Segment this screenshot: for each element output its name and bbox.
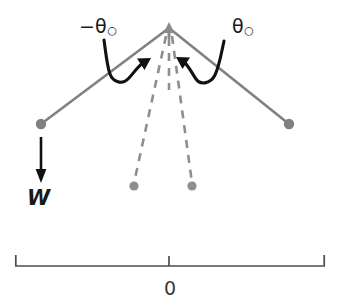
positive-theta-subscript: ○ [244,24,254,37]
weight-label: W [27,188,50,209]
positive-theta-label: θ○ [232,17,254,36]
weight-arrow [36,137,47,183]
diagram-canvas [0,0,341,305]
displacement-axis [15,255,325,266]
origin-label: 0 [164,279,176,298]
bobs [36,119,294,191]
dashed-left-bob [129,181,138,190]
right-bob [284,119,294,129]
positive-theta-symbol: θ [232,15,244,37]
negative-theta-subscript: ○ [107,24,117,37]
pendulum-diagram: −θ○ θ○ W 0 [0,0,341,305]
left-bob [36,119,46,129]
negative-theta-label: −θ○ [79,17,117,36]
right-angle-arrow [176,41,224,83]
right-rod [169,28,289,124]
dashed-right-bob [187,181,196,190]
negative-theta-symbol: −θ [79,15,107,37]
